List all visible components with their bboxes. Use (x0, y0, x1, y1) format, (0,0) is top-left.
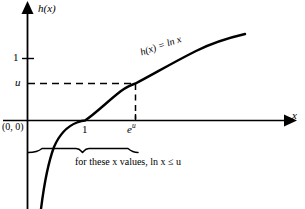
y-tick-label-u: u (15, 77, 21, 88)
x-tick-label-eu: eu (127, 124, 136, 135)
ln-curve (41, 34, 245, 209)
x-axis-label: x (292, 110, 297, 121)
y-axis-label: h(x) (38, 3, 56, 14)
y-axis-arrowhead (22, 1, 34, 14)
ln-function-graph-figure: h(x) 1 u (0, 0) 1 eu x h(x) = ln x for t… (0, 0, 305, 209)
origin-label: (0, 0) (2, 122, 24, 132)
x-tick-label-eu-exponent: u (132, 121, 136, 130)
x-tick-label-one: 1 (82, 124, 88, 135)
y-tick-label-one: 1 (13, 52, 19, 63)
underbrace (28, 149, 138, 153)
brace-caption: for these x values, ln x ≤ u (75, 157, 181, 167)
graph-canvas (0, 0, 305, 209)
